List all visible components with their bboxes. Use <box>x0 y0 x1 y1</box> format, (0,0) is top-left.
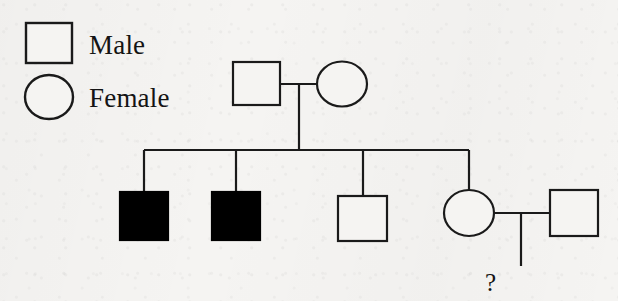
legend-group <box>25 23 73 119</box>
sibship-lines-group <box>144 84 469 196</box>
symbol-child-3-square <box>338 196 387 241</box>
symbol-child-4-spouse-square <box>550 190 598 236</box>
legend-male-label: Male <box>89 32 145 59</box>
legend-male-square <box>26 23 72 63</box>
symbol-child-2-square-affected <box>212 192 260 240</box>
symbol-child-1-square-affected <box>120 192 168 240</box>
symbol-father-square <box>233 62 280 105</box>
symbol-mother-circle <box>317 62 367 107</box>
pedigree-chart-figure: Male Female ? <box>0 0 618 301</box>
symbol-child-4-circle <box>444 190 494 236</box>
legend-female-circle <box>25 75 73 119</box>
unknown-offspring-question-mark: ? <box>485 270 496 295</box>
generation-2-group <box>120 190 598 241</box>
legend-female-label: Female <box>89 85 170 112</box>
